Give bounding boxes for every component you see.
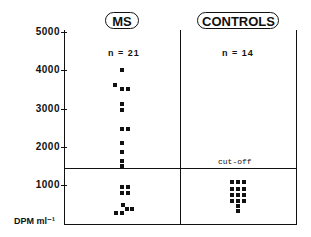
data-point	[125, 207, 129, 211]
data-point	[242, 187, 246, 191]
ytick-1000: 1000	[24, 179, 60, 190]
data-point	[114, 211, 118, 215]
y-axis	[64, 30, 65, 225]
data-point	[113, 83, 117, 87]
data-point	[120, 127, 124, 131]
data-point	[236, 193, 240, 197]
data-point	[126, 87, 130, 91]
data-point	[120, 211, 124, 215]
data-point	[236, 199, 240, 203]
data-point	[230, 180, 234, 184]
data-point	[236, 209, 240, 213]
data-point	[126, 185, 130, 189]
group-label-ms: MS	[105, 12, 139, 29]
data-point	[120, 87, 124, 91]
data-point	[236, 204, 240, 208]
group-label-controls: CONTROLS	[197, 12, 279, 29]
right-border	[296, 30, 297, 225]
n-label-ms: n = 21	[94, 48, 154, 58]
data-point	[120, 159, 124, 163]
data-point	[120, 150, 124, 154]
y-unit-label: DPM ml⁻¹	[14, 216, 55, 226]
data-point	[120, 102, 124, 106]
data-point	[230, 199, 234, 203]
data-point	[126, 127, 130, 131]
data-point	[230, 193, 234, 197]
data-point	[236, 180, 240, 184]
cutoff-line	[64, 168, 296, 169]
data-point	[120, 68, 124, 72]
ytick-5000: 5000	[24, 26, 60, 37]
data-point	[230, 187, 234, 191]
data-point	[120, 185, 124, 189]
data-point	[120, 141, 124, 145]
data-point	[120, 191, 124, 195]
data-point	[236, 187, 240, 191]
data-point	[120, 108, 124, 112]
ytick-2000: 2000	[24, 141, 60, 152]
data-point	[242, 193, 246, 197]
data-point	[126, 191, 130, 195]
n-label-controls: n = 14	[208, 48, 268, 58]
cutoff-label: cut-off	[218, 157, 252, 166]
ytick-4000: 4000	[24, 64, 60, 75]
data-point	[120, 164, 124, 168]
data-point	[242, 199, 246, 203]
data-point	[242, 180, 246, 184]
group-divider	[180, 30, 181, 225]
ytick-3000: 3000	[24, 103, 60, 114]
data-point	[130, 207, 134, 211]
